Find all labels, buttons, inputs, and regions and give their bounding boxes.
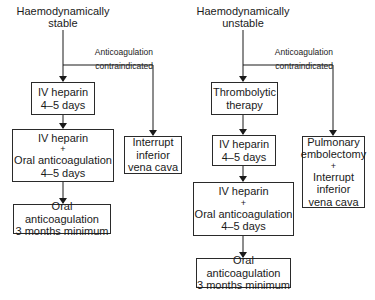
left-branch-label-line2: contraindicated (88, 61, 153, 71)
text: vena cava (128, 161, 178, 174)
text: Thrombolytic (213, 86, 276, 99)
left-branch-label-line1: Anticoagulation (88, 47, 153, 57)
right-step-iv-heparin-oral: IV heparin + Oral anticoagulation 4–5 da… (193, 182, 294, 236)
right-title-line1: Haemodynamically (193, 5, 293, 17)
text: Oral anticoagulation (14, 200, 110, 225)
text: IV heparin (218, 185, 268, 198)
text: Interrupt (133, 136, 174, 149)
text: IV heparin (219, 138, 269, 151)
right-branch-label: Anticoagulation contraindicated (268, 47, 333, 71)
text: Pulmonary (307, 136, 360, 149)
text: inferior (317, 183, 351, 196)
right-step-oral-anticoagulation: Oral anticoagulation 3 months minimum (196, 258, 291, 288)
left-branch-label: Anticoagulation contraindicated (88, 47, 153, 71)
right-step-thrombolytic-therapy: Thrombolytic therapy (211, 82, 278, 115)
text: inferior (136, 149, 170, 162)
text: Oral anticoagulation (197, 254, 290, 279)
text: IV heparin (38, 132, 88, 145)
right-step-iv-heparin: IV heparin 4–5 days (212, 135, 276, 166)
left-branch-interrupt-ivc: Interrupt inferior vena cava (124, 136, 182, 174)
right-title-line2: unstable (193, 17, 293, 29)
right-branch-label-line1: Anticoagulation (268, 47, 333, 57)
text: 3 months minimum (16, 225, 109, 238)
pe-management-flowchart: Haemodynamically stable Anticoagulation … (0, 0, 375, 300)
plus-sign: + (331, 161, 336, 171)
plus-sign: + (241, 198, 246, 208)
right-branch-embolectomy-ivc: Pulmonary embolectomy + Interrupt inferi… (302, 136, 365, 208)
text: 4–5 days (41, 167, 86, 180)
left-title-line1: Haemodynamically (13, 5, 113, 17)
left-step-iv-heparin-oral: IV heparin + Oral anticoagulation 4–5 da… (12, 129, 114, 182)
text: 3 months minimum (197, 279, 290, 292)
right-branch-label-line2: contraindicated (268, 61, 333, 71)
text: Oral anticoagulation (14, 154, 112, 167)
text: 4–5 days (222, 151, 267, 164)
left-step-oral-anticoagulation: Oral anticoagulation 3 months minimum (13, 204, 111, 234)
text: IV heparin (38, 86, 88, 99)
right-title: Haemodynamically unstable (193, 5, 293, 29)
text: Oral anticoagulation (195, 208, 293, 221)
text: 4–5 days (221, 220, 266, 233)
left-title: Haemodynamically stable (13, 5, 113, 29)
left-step-iv-heparin: IV heparin 4–5 days (31, 82, 95, 115)
text: therapy (226, 99, 263, 112)
text: vena cava (308, 196, 358, 209)
text: 4–5 days (41, 99, 86, 112)
plus-sign: + (60, 144, 65, 154)
left-title-line2: stable (13, 17, 113, 29)
text: embolectomy (301, 148, 366, 161)
text: Interrupt (313, 171, 354, 184)
